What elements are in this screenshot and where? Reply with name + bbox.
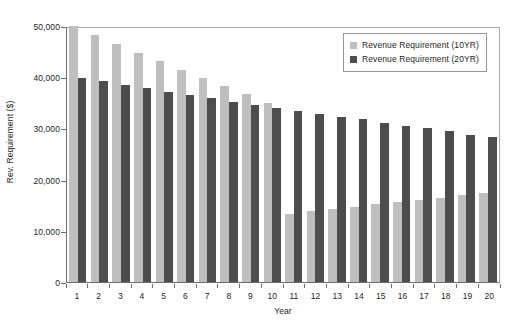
bar-13-series-1 bbox=[328, 209, 337, 282]
bar-9-series-1 bbox=[242, 94, 251, 282]
bar-20-series-2 bbox=[488, 137, 497, 282]
bar-19-series-1 bbox=[458, 195, 467, 282]
x-axis-ticks: 1234567891011121314151617181920 bbox=[66, 284, 500, 308]
y-axis-tick-label: 50,000 bbox=[18, 22, 60, 32]
y-axis-tick-label: 30,000 bbox=[18, 124, 60, 134]
bar-group bbox=[197, 28, 219, 282]
bar-9-series-2 bbox=[251, 105, 260, 282]
bar-group bbox=[153, 28, 175, 282]
x-axis-tick-label: 12 bbox=[305, 284, 327, 308]
x-axis-tick-label: 8 bbox=[218, 284, 240, 308]
legend-item[interactable]: Revenue Requirement (20YR) bbox=[350, 52, 479, 66]
bar-1-series-1 bbox=[69, 26, 78, 282]
x-axis-tick-label: 13 bbox=[326, 284, 348, 308]
y-axis-tick-label: 10,000 bbox=[18, 227, 60, 237]
bar-1-series-2 bbox=[78, 78, 87, 282]
bar-7-series-2 bbox=[207, 98, 216, 282]
bar-3-series-1 bbox=[112, 44, 121, 282]
x-axis-tick-label: 16 bbox=[392, 284, 414, 308]
legend-item[interactable]: Revenue Requirement (10YR) bbox=[350, 38, 479, 52]
bar-4-series-1 bbox=[134, 53, 143, 282]
legend-swatch-icon bbox=[350, 42, 357, 49]
bar-group bbox=[89, 28, 111, 282]
x-axis-title-text: Year bbox=[274, 306, 292, 316]
x-axis-tick-label: 11 bbox=[283, 284, 305, 308]
bar-4-series-2 bbox=[143, 88, 152, 282]
x-axis-tick-label: 6 bbox=[175, 284, 197, 308]
x-axis-tick-label: 2 bbox=[88, 284, 110, 308]
y-axis-title: Rev. Requirement ($) bbox=[2, 0, 18, 283]
legend-item-label: Revenue Requirement (20YR) bbox=[362, 54, 479, 64]
y-axis-tick-label: 20,000 bbox=[18, 176, 60, 186]
bar-19-series-2 bbox=[466, 135, 475, 282]
bar-13-series-2 bbox=[337, 117, 346, 282]
bar-20-series-1 bbox=[479, 193, 488, 282]
x-axis-tick-label: 7 bbox=[196, 284, 218, 308]
bar-14-series-1 bbox=[350, 207, 359, 282]
x-axis-tick-label: 17 bbox=[413, 284, 435, 308]
bar-10-series-2 bbox=[272, 108, 281, 282]
x-axis-tick-label: 14 bbox=[348, 284, 370, 308]
x-axis-tick-label: 4 bbox=[131, 284, 153, 308]
legend-item-label: Revenue Requirement (10YR) bbox=[362, 40, 479, 50]
bar-7-series-1 bbox=[199, 78, 208, 282]
bar-group bbox=[283, 28, 305, 282]
bar-18-series-1 bbox=[436, 198, 445, 282]
bar-group bbox=[218, 28, 240, 282]
bar-group bbox=[305, 28, 327, 282]
bar-3-series-2 bbox=[121, 85, 130, 282]
x-axis-tick-label: 19 bbox=[457, 284, 479, 308]
y-axis-tick-label: 40,000 bbox=[18, 73, 60, 83]
bar-group bbox=[110, 28, 132, 282]
bar-12-series-2 bbox=[315, 114, 324, 282]
bar-18-series-2 bbox=[445, 131, 454, 282]
bar-chart: Rev. Requirement ($) 010,00020,00030,000… bbox=[0, 0, 510, 335]
legend-swatch-icon bbox=[350, 56, 357, 63]
x-axis-tick-label: 10 bbox=[261, 284, 283, 308]
x-axis-tick-label: 20 bbox=[478, 284, 500, 308]
y-axis-tick-label: 0 bbox=[18, 278, 60, 288]
bar-group bbox=[240, 28, 262, 282]
x-axis-tick-label: 5 bbox=[153, 284, 175, 308]
x-axis-tick-label: 18 bbox=[435, 284, 457, 308]
x-axis-tick-label: 15 bbox=[370, 284, 392, 308]
x-axis-title: Year bbox=[66, 306, 500, 316]
bar-group bbox=[67, 28, 89, 282]
bar-15-series-2 bbox=[380, 123, 389, 282]
bar-8-series-1 bbox=[220, 86, 229, 282]
bar-15-series-1 bbox=[371, 204, 380, 282]
bar-group bbox=[175, 28, 197, 282]
bar-5-series-1 bbox=[156, 61, 165, 282]
bar-10-series-1 bbox=[264, 103, 273, 282]
y-axis-title-text: Rev. Requirement ($) bbox=[5, 100, 15, 183]
bar-14-series-2 bbox=[359, 119, 368, 282]
bar-2-series-1 bbox=[91, 35, 100, 282]
bar-17-series-2 bbox=[423, 128, 432, 282]
bar-17-series-1 bbox=[415, 200, 424, 282]
bar-11-series-1 bbox=[285, 214, 294, 282]
bar-6-series-1 bbox=[177, 70, 186, 282]
x-axis-tick-label: 3 bbox=[109, 284, 131, 308]
bar-16-series-1 bbox=[393, 202, 402, 282]
x-axis-tick-label: 9 bbox=[240, 284, 262, 308]
bar-2-series-2 bbox=[99, 81, 108, 282]
x-axis-tick-label: 1 bbox=[66, 284, 88, 308]
bar-8-series-2 bbox=[229, 102, 238, 282]
bar-11-series-2 bbox=[294, 111, 303, 282]
bar-group bbox=[132, 28, 154, 282]
bar-16-series-2 bbox=[402, 126, 411, 282]
bar-12-series-1 bbox=[307, 211, 316, 282]
chart-legend: Revenue Requirement (10YR)Revenue Requir… bbox=[343, 33, 487, 72]
bar-6-series-2 bbox=[186, 95, 195, 282]
bar-group bbox=[261, 28, 283, 282]
bar-5-series-2 bbox=[164, 92, 173, 282]
